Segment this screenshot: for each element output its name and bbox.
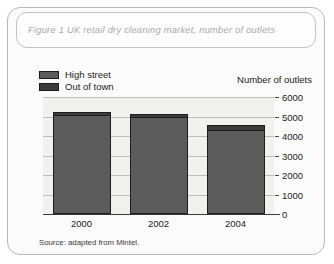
legend-item-out-of-town: Out of town xyxy=(39,81,114,92)
y-tick-label: 5000 xyxy=(282,111,303,122)
y-tick-label: 4000 xyxy=(282,131,303,142)
x-axis-labels: 200020022004 xyxy=(43,218,274,229)
chart-area: High street Out of town Number of outlet… xyxy=(18,52,316,252)
bar-group[interactable] xyxy=(207,97,265,214)
bar-segment-high-street[interactable] xyxy=(131,118,187,213)
x-axis-label: 2000 xyxy=(53,218,111,229)
legend-label-high-street: High street xyxy=(65,69,111,80)
y-tick-label: 1000 xyxy=(282,189,303,200)
y-tick-mark xyxy=(275,117,279,118)
y-tick-label: 0 xyxy=(282,209,287,220)
bar-stack[interactable] xyxy=(207,125,265,214)
page-title: Figure 1 UK retail dry cleaning market, … xyxy=(28,25,275,35)
y-tick-mark xyxy=(275,97,279,98)
y-tick-mark xyxy=(275,136,279,137)
bar-group[interactable] xyxy=(53,97,111,214)
legend-swatch-high-street xyxy=(39,71,59,79)
x-axis-label: 2004 xyxy=(207,218,265,229)
x-axis-label: 2002 xyxy=(130,218,188,229)
bar-segment-high-street[interactable] xyxy=(208,131,264,213)
bar-stack[interactable] xyxy=(53,112,111,214)
y-axis-title: Number of outlets xyxy=(237,74,312,85)
source-note: Source: adapted from Mintel. xyxy=(39,238,139,247)
figure-container: Figure 1 UK retail dry cleaning market, … xyxy=(7,7,325,255)
plot-wrapper: 0100020003000400050006000 xyxy=(43,97,274,214)
legend-label-out-of-town: Out of town xyxy=(65,81,114,92)
bar-series xyxy=(43,97,274,214)
bar-stack[interactable] xyxy=(130,114,188,214)
y-tick-label: 3000 xyxy=(282,150,303,161)
y-tick-label: 2000 xyxy=(282,170,303,181)
legend-item-high-street: High street xyxy=(39,69,114,80)
y-tick-label: 6000 xyxy=(282,92,303,103)
figure-title-bar: Figure 1 UK retail dry cleaning market, … xyxy=(16,12,316,48)
y-tick-mark xyxy=(275,195,279,196)
y-tick-mark xyxy=(275,156,279,157)
x-axis-line xyxy=(43,214,280,215)
legend-swatch-out-of-town xyxy=(39,83,59,91)
bar-segment-high-street[interactable] xyxy=(54,116,110,213)
y-tick-mark xyxy=(275,175,279,176)
bar-group[interactable] xyxy=(130,97,188,214)
chart-legend: High street Out of town xyxy=(39,69,114,93)
